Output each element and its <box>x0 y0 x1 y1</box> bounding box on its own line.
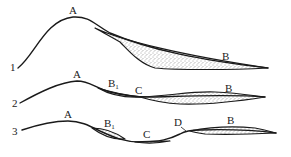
deposit-label-b1-profile-2: B1 <box>108 77 119 91</box>
profile-2-number: 2 <box>12 97 18 109</box>
point-label-d-profile-3: D <box>174 116 182 128</box>
crest-label-a-profile-1: A <box>69 4 77 16</box>
crest-label-a-profile-2: A <box>73 68 81 80</box>
profile-3-number: 3 <box>12 125 18 137</box>
deposit-label-b-profile-1: B <box>222 50 229 62</box>
deposit-lens-b-profile-3 <box>190 127 276 134</box>
deposit-label-b-profile-3: B <box>227 114 234 126</box>
profile-2: 2 A B1 C B <box>12 68 265 109</box>
deposit-lens-b-profile-1 <box>95 28 268 70</box>
profile-3: 3 A B1 C D B <box>12 108 276 143</box>
crest-label-a-profile-3: A <box>64 108 72 120</box>
deposit-lens-b-profile-2 <box>140 92 265 104</box>
deposit-label-b1-profile-3: B1 <box>104 117 115 131</box>
middle-label-c-profile-2: C <box>135 84 142 96</box>
deposit-label-b-profile-2: B <box>225 82 232 94</box>
profile-1: 1 A B <box>10 4 268 73</box>
profile-1-number: 1 <box>10 61 16 73</box>
middle-label-c-profile-3: C <box>143 128 150 140</box>
profile-diagram: 1 A B 2 A B1 C B 3 A B1 C D B <box>0 0 291 157</box>
